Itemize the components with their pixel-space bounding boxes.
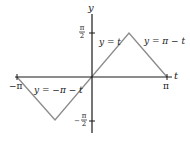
svg-text:π: π — [80, 24, 85, 32]
neg-pi-half-label: − π 2 — [74, 112, 87, 128]
svg-text:−: − — [74, 117, 80, 125]
t-axis-label: t — [174, 70, 179, 81]
pi-half-label: π 2 — [79, 24, 85, 40]
svg-text:2: 2 — [82, 120, 86, 128]
segment-label-left: y = −π − t — [33, 85, 83, 95]
chart-canvas: y t −π π π 2 − π 2 y = t y = π − t y = −… — [0, 0, 190, 141]
svg-text:π: π — [82, 112, 87, 120]
pos-pi-label: π — [163, 81, 169, 91]
neg-pi-label: −π — [9, 81, 23, 91]
segment-label-middle: y = t — [98, 37, 121, 47]
svg-text:2: 2 — [80, 32, 84, 40]
segment-label-right: y = π − t — [143, 36, 186, 46]
y-axis-label: y — [87, 2, 94, 13]
